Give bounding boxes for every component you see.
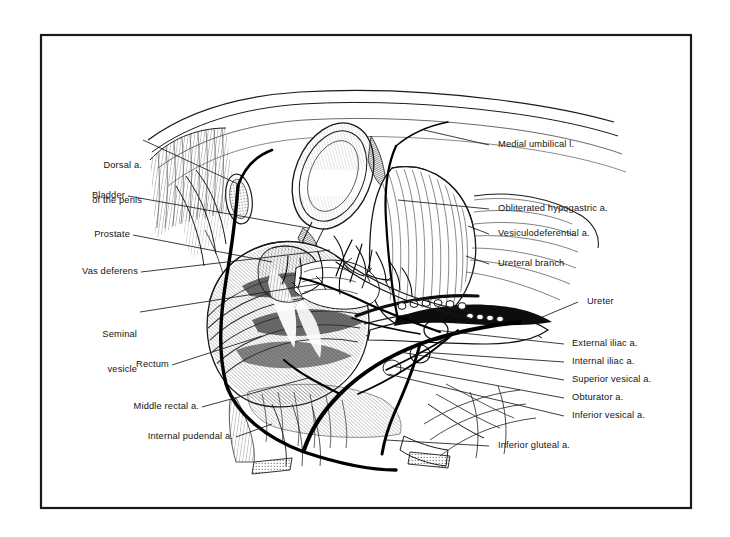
label-obturator-artery: Obturator a. xyxy=(572,392,623,404)
label-ureteral-branch: Ureteral branch xyxy=(498,258,564,270)
label-line: Dorsal a. xyxy=(20,160,142,172)
label-superior-vesical-artery: Superior vesical a. xyxy=(572,374,651,386)
label-inferior-gluteal-artery: Inferior gluteal a. xyxy=(498,440,570,452)
label-ureter: Ureter xyxy=(587,296,614,308)
label-bladder: Bladder xyxy=(20,190,125,202)
label-external-iliac-artery: External iliac a. xyxy=(572,338,638,350)
label-vesiculodeferential-artery: Vesiculodeferential a. xyxy=(498,228,590,240)
label-internal-iliac-artery: Internal iliac a. xyxy=(572,356,635,368)
label-rectum: Rectum xyxy=(20,359,169,371)
label-prostate: Prostate xyxy=(20,229,130,241)
label-middle-rectal-artery: Middle rectal a. xyxy=(20,401,199,413)
label-dorsal-artery-of-penis: Dorsal a. of the penis xyxy=(20,137,142,229)
label-vas-deferens: Vas deferens xyxy=(20,266,138,278)
label-obliterated-hypogastric-artery: Obliterated hypogastric a. xyxy=(498,203,608,215)
anatomical-figure: Dorsal a. of the penis Bladder Prostate … xyxy=(0,0,730,537)
label-medial-umbilical-ligament: Medial umbilical l. xyxy=(498,139,574,151)
label-seminal-vesicle: Seminal vesicle xyxy=(20,306,137,398)
label-line: Seminal xyxy=(20,329,137,341)
label-internal-pudendal-artery: Internal pudendal a. xyxy=(20,431,233,443)
label-inferior-vesical-artery: Inferior vesical a. xyxy=(572,410,645,422)
